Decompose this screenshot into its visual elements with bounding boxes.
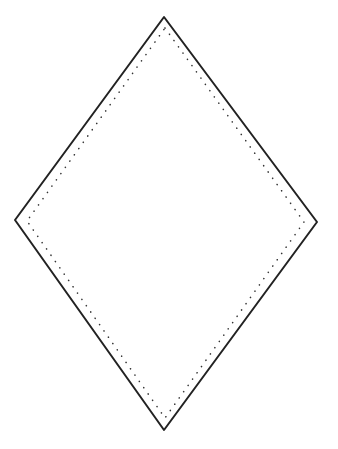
diamond-outline: [15, 17, 317, 430]
diamond-diagram: [0, 0, 338, 449]
diamond-dotted-inner-line: [27, 28, 304, 418]
